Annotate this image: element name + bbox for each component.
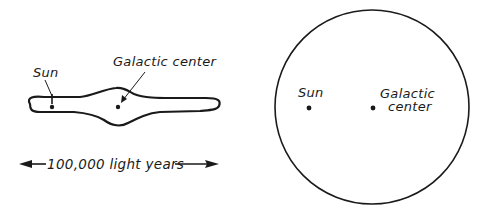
galaxy-structure-figure: Sun Galactic center 100,000 light years … [0, 0, 493, 220]
galactic-center-label-face-on: Galactic center [380, 87, 435, 113]
galactic-center-label-edge-on: Galactic center [113, 55, 216, 69]
galaxy-disk-outline [29, 88, 220, 126]
sun-label-face-on: Sun [298, 86, 324, 100]
sun-label-edge-on: Sun [33, 66, 59, 80]
sun-dot-edge-on [50, 105, 54, 109]
sun-pointer-line [45, 80, 52, 96]
galactic-center-dot-edge-on [116, 105, 120, 109]
galactic-center-label-line2: center [380, 100, 435, 113]
scale-bar-label: 100,000 light years [47, 157, 184, 171]
scale-right-arrowhead [205, 160, 219, 168]
sun-dot-face-on [307, 106, 312, 111]
galactic-center-dot-face-on [371, 106, 376, 111]
